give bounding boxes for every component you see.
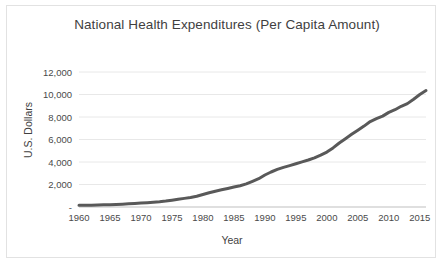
data-series [79,91,426,206]
x-tick-label: 1975 [161,212,182,223]
series-line [79,91,426,206]
gridlines [79,72,426,207]
x-tick-label: 1970 [130,212,151,223]
x-tick-label: 1985 [223,212,244,223]
x-tick-label: 2005 [347,212,368,223]
x-tick-label: 2015 [409,212,430,223]
plot-area: 12,00010,0008,0006,0004,0002,000- 196019… [7,6,437,259]
y-tick-label: 6,000 [48,134,72,145]
y-tick-label: 12,000 [43,67,72,78]
y-tick-label: 4,000 [48,157,72,168]
y-tick-label: - [69,202,72,213]
chart-container: National Health Expenditures (Per Capita… [6,5,436,258]
y-tick-label: 2,000 [48,179,72,190]
x-tick-label: 1960 [68,212,89,223]
x-tick-label: 2000 [316,212,337,223]
x-tick-label: 2010 [378,212,399,223]
x-tick-label: 1965 [99,212,120,223]
y-tick-label: 8,000 [48,112,72,123]
y-tick-labels: 12,00010,0008,0006,0004,0002,000- [43,67,72,213]
x-tick-label: 1980 [192,212,213,223]
x-tick-label: 1995 [285,212,306,223]
x-tick-labels: 1960196519701975198019851990199520002005… [68,212,430,223]
x-tick-label: 1990 [254,212,275,223]
y-tick-label: 10,000 [43,89,72,100]
